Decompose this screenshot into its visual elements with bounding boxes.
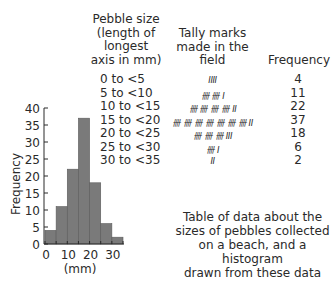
frequency-cell: 4 [280, 73, 316, 87]
header-line: Pebble size [86, 13, 166, 27]
header-pebble-size: Pebble size (length of longest axis in m… [86, 13, 166, 67]
y-tick-label: 25 [25, 153, 40, 167]
frequency-cell: 11 [280, 87, 316, 101]
tally-cell: IIII [155, 75, 270, 85]
header-line: longest [86, 40, 166, 54]
frequency-cell: 37 [280, 114, 316, 128]
histogram-bar [78, 118, 89, 244]
header-frequency: Frequency [268, 54, 328, 68]
caption-line: on a beach, and a histogram [170, 238, 335, 266]
histogram: 05101520253035400102030(mm)Frequency [0, 95, 135, 281]
y-tick-label: 20 [25, 170, 40, 184]
histogram-bar [56, 207, 67, 244]
x-axis-label: (mm) [64, 262, 97, 276]
header-tally-marks: Tally marks made in the field [170, 27, 255, 68]
x-tick-label: 20 [83, 248, 98, 262]
header-line: made in the [170, 41, 255, 55]
header-line: axis in mm) [86, 54, 166, 68]
tally-cell: 卌 卌 卌 卌 II [155, 102, 270, 114]
histogram-bar [45, 230, 56, 244]
y-tick-label: 5 [32, 221, 40, 235]
frequency-cell: 6 [280, 141, 316, 155]
tally-cell: 卌 卌 I [155, 89, 270, 101]
caption-line: drawn from these data [170, 266, 335, 280]
figure-caption: Table of data about the sizes of pebbles… [170, 210, 335, 280]
frequency-cell: 22 [280, 100, 316, 114]
y-tick-label: 0 [32, 238, 40, 252]
histogram-bars [45, 118, 123, 244]
y-tick-label: 15 [25, 187, 40, 201]
frequency-cell: 2 [280, 154, 316, 168]
y-tick-label: 40 [25, 102, 40, 116]
histogram-bar [101, 224, 112, 244]
header-line: (length of [86, 27, 166, 41]
histogram-bar [67, 169, 78, 244]
x-tick-label: 30 [105, 248, 120, 262]
histogram-bar [112, 237, 123, 244]
y-tick-label: 30 [25, 136, 40, 150]
y-axis-label: Frequency [9, 153, 23, 215]
y-tick-label: 10 [25, 204, 40, 218]
x-tick-label: 0 [42, 248, 50, 262]
tally-cell: II [155, 156, 270, 166]
histogram-axes: 05101520253035400102030(mm)Frequency [9, 102, 124, 277]
histogram-bar [90, 183, 101, 244]
header-line: field [170, 54, 255, 68]
size-cell: 0 to <5 [100, 73, 145, 87]
frequency-cell: 18 [280, 127, 316, 141]
y-tick-label: 35 [25, 119, 40, 133]
tally-cell: 卌 卌 卌 III [155, 129, 270, 141]
x-tick-label: 10 [61, 248, 76, 262]
caption-line: Table of data about the [170, 210, 335, 224]
caption-line: sizes of pebbles collected [170, 224, 335, 238]
tally-cell: 卌 I [155, 143, 270, 155]
tally-cell: 卌 卌 卌 卌 卌 卌 卌 II [155, 116, 270, 128]
header-line: Tally marks [170, 27, 255, 41]
